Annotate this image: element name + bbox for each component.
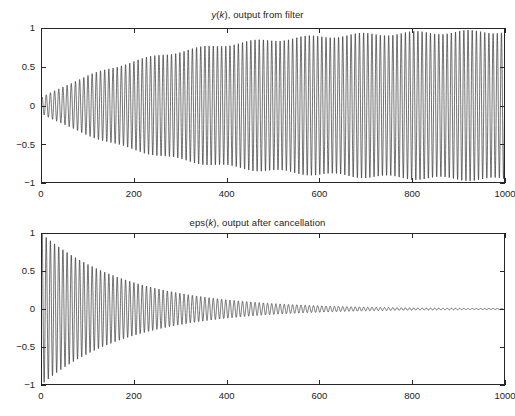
x-tick-label: 600 (311, 390, 327, 401)
y-tick-label: 0.5 (22, 61, 35, 72)
x-tick-label: 0 (38, 188, 43, 199)
plot-title-filter-output: y(k), output from filter (0, 9, 515, 20)
y-tick-label: 1 (30, 227, 35, 238)
x-tick-label: 800 (404, 188, 420, 199)
axes-panel-cancellation-error: eps(k), output after cancellation 020040… (0, 208, 515, 416)
y-tick-label: 0 (30, 303, 35, 314)
x-tick-label: 1000 (494, 188, 515, 199)
x-tick-label: 400 (219, 390, 235, 401)
x-tick-label: 800 (404, 390, 420, 401)
plot-canvas-cancellation-error: 02004006008001000−1−0.500.51 (0, 208, 515, 416)
plot-canvas-filter-output: 02004006008001000−1−0.500.51 (0, 0, 515, 208)
title-segment: eps( (190, 217, 209, 228)
x-tick-label: 400 (219, 188, 235, 199)
plot-title-cancellation-error: eps(k), output after cancellation (0, 217, 515, 228)
y-tick-label: 0.5 (22, 265, 35, 276)
data-trace (41, 234, 505, 382)
data-trace (41, 30, 505, 181)
y-tick-label: −1 (24, 379, 35, 390)
matlab-figure-window: y(k), output from filter 020040060080010… (0, 0, 515, 416)
x-tick-label: 1000 (494, 390, 515, 401)
title-segment: ), output from filter (224, 9, 303, 20)
y-tick-label: 0 (30, 100, 35, 111)
title-segment: ), output after cancellation (213, 217, 325, 228)
x-tick-label: 0 (38, 390, 43, 401)
y-tick-label: −1 (24, 177, 35, 188)
axes-panel-filter-output: y(k), output from filter 020040060080010… (0, 0, 515, 208)
x-tick-label: 200 (126, 188, 142, 199)
x-tick-label: 600 (311, 188, 327, 199)
y-tick-label: −0.5 (16, 341, 35, 352)
y-tick-label: 1 (30, 22, 35, 33)
x-tick-label: 200 (126, 390, 142, 401)
y-tick-label: −0.5 (16, 139, 35, 150)
